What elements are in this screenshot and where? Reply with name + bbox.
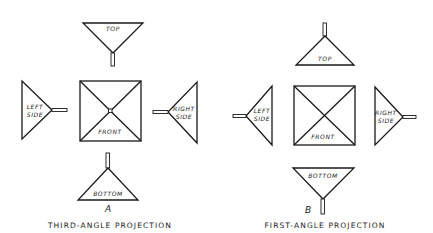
top-view-label: TOP — [106, 25, 120, 32]
right-side-label-line2: SIDE — [378, 117, 394, 124]
bottom-view: BOTTOM — [293, 168, 354, 214]
right-side-view: RIGHT SIDE — [153, 82, 197, 143]
projection-diagram: TOP FRONT LEFT SIDE RIGHT SIDE — [0, 0, 433, 233]
left-side-label-line2: SIDE — [254, 115, 270, 122]
panel-letter-b: B — [305, 205, 311, 215]
panel-first-angle: TOP FRONT LEFT SIDE RIGHT SIDE BOTTOM — [233, 23, 416, 230]
left-side-view: LEFT SIDE — [22, 81, 67, 139]
top-view: TOP — [83, 23, 143, 66]
left-side-view: LEFT SIDE — [233, 86, 272, 145]
right-side-label-line1: RIGHT — [375, 109, 397, 116]
front-view-label: FRONT — [311, 133, 335, 140]
left-side-label-line2: SIDE — [27, 111, 43, 118]
panel-letter-a: A — [104, 204, 111, 214]
panel-third-angle: TOP FRONT LEFT SIDE RIGHT SIDE — [22, 23, 197, 230]
bottom-view: BOTTOM — [78, 153, 138, 200]
caption-first-angle: FIRST-ANGLE PROJECTION — [264, 221, 385, 230]
bottom-view-label: BOTTOM — [308, 172, 338, 179]
bottom-view-label: BOTTOM — [93, 190, 123, 197]
caption-third-angle: THIRD-ANGLE PROJECTION — [47, 221, 172, 230]
left-side-label-line1: LEFT — [27, 103, 44, 110]
front-view: FRONT — [294, 86, 355, 145]
top-view-label: TOP — [318, 55, 332, 62]
front-view: FRONT — [80, 81, 141, 141]
right-side-view: RIGHT SIDE — [375, 87, 416, 145]
right-side-label-line2: SIDE — [176, 113, 192, 120]
top-view: TOP — [296, 23, 354, 65]
left-side-label-line1: LEFT — [254, 107, 271, 114]
right-side-label-line1: RIGHT — [173, 105, 195, 112]
front-view-label: FRONT — [98, 128, 122, 135]
